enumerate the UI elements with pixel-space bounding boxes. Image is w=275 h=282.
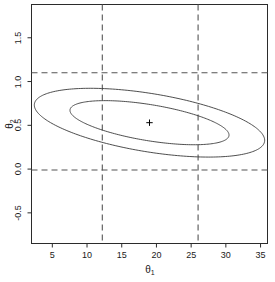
x-axis-ticks	[52, 244, 260, 248]
y-axis-title: θ2	[4, 119, 16, 128]
y-axis-title-base: θ	[4, 123, 15, 129]
y-axis-ticks	[28, 38, 32, 213]
y-axis-title-subscript: 2	[9, 119, 16, 123]
x-tick-label: 10	[82, 250, 92, 260]
x-tick-label: 5	[50, 250, 55, 260]
contour-plot-figure: 5101520253035 -0.50.00.51.01.5 θ1 θ2	[0, 0, 275, 282]
x-tick-label: 20	[151, 250, 161, 260]
x-tick-label: 25	[186, 250, 196, 260]
y-tick-label: 0.0	[13, 163, 23, 176]
x-tick-label: 15	[117, 250, 127, 260]
plot-canvas	[0, 0, 275, 282]
x-axis-title: θ1	[145, 264, 154, 276]
x-axis-title-subscript: 1	[151, 269, 155, 276]
y-tick-label: 1.0	[13, 75, 23, 88]
point-estimate-marker	[146, 119, 152, 125]
y-tick-label: -0.5	[13, 205, 23, 221]
y-tick-label: 1.5	[13, 32, 23, 45]
x-tick-label: 30	[221, 250, 231, 260]
x-tick-label: 35	[256, 250, 266, 260]
